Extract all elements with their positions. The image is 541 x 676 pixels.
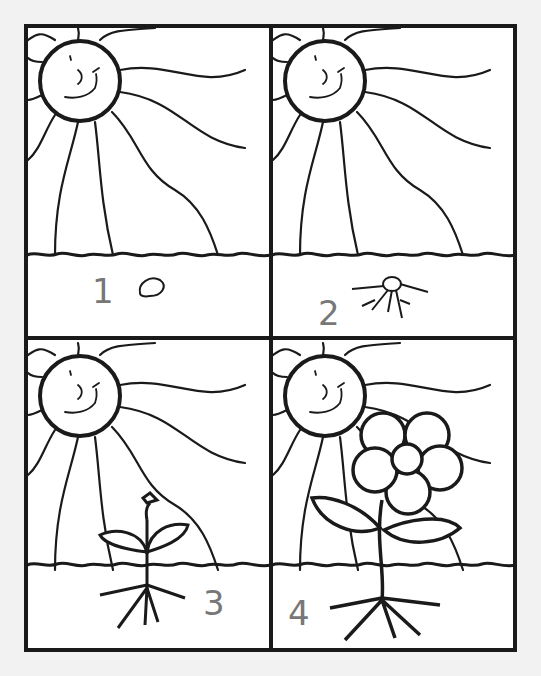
handwritten-label-1: 1 [92, 271, 114, 311]
handwritten-label-3: 3 [203, 583, 225, 623]
handwritten-label-4: 4 [288, 593, 310, 633]
handwritten-label-2: 2 [318, 293, 340, 333]
worksheet-drawing: 1 2 3 [0, 0, 541, 676]
